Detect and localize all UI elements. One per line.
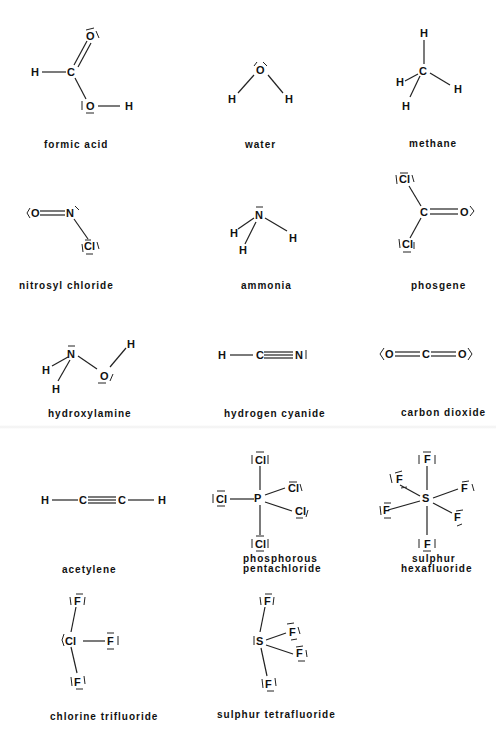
atom-cl: Cl: [216, 493, 227, 505]
chlorine-trifluoride-structure: Cl F F F: [62, 594, 118, 689]
label-water: water: [245, 140, 276, 150]
nitrosyl-chloride-structure: O N Cl: [27, 206, 99, 254]
lewis-structures-figure: H C O O H O H H H C H H H O N Cl: [0, 0, 496, 729]
atom-h: H: [31, 66, 39, 78]
label-sf6-line2: hexafluoride: [401, 564, 472, 574]
atom-c: C: [118, 494, 126, 506]
atom-f: F: [383, 504, 390, 516]
atom-n: N: [67, 348, 75, 360]
atom-n: N: [255, 209, 263, 221]
atom-cl: Cl: [255, 454, 266, 466]
atom-s: S: [256, 635, 263, 647]
label-hydrogen-cyanide: hydrogen cyanide: [224, 409, 326, 419]
atom-f: F: [265, 678, 272, 690]
label-carbon-dioxide: carbon dioxide: [401, 408, 486, 418]
atom-c: C: [422, 348, 430, 360]
water-structure: O H H: [228, 62, 293, 105]
label-ammonia: ammonia: [241, 281, 292, 291]
atom-h: H: [42, 364, 50, 376]
ammonia-structure: N H H H: [230, 207, 297, 256]
atom-h: H: [289, 232, 297, 244]
atom-f: F: [424, 538, 431, 550]
label-nitrosyl-chloride: nitrosyl chloride: [19, 281, 114, 291]
label-chlorine-trifluoride: chlorine trifluoride: [50, 712, 158, 722]
atom-f: F: [396, 473, 403, 485]
atom-o: O: [458, 348, 467, 360]
atom-h: H: [230, 227, 238, 239]
atom-p: P: [254, 492, 261, 504]
atom-c: C: [420, 206, 428, 218]
atom-h: H: [285, 93, 293, 105]
label-acetylene: acetylene: [62, 565, 117, 575]
atom-f: F: [461, 482, 468, 494]
phosgene-structure: Cl C O Cl: [396, 173, 474, 252]
atom-f: F: [289, 626, 296, 638]
atom-c: C: [79, 494, 87, 506]
label-methane: methane: [409, 139, 457, 149]
atom-n: N: [66, 207, 74, 219]
hydrogen-cyanide-structure: H C N: [218, 349, 306, 361]
atom-h: H: [396, 76, 404, 88]
label-pcl5-line2: pentachloride: [243, 564, 322, 574]
atom-h: H: [228, 93, 236, 105]
atom-f: F: [74, 595, 81, 607]
atom-h: H: [454, 83, 462, 95]
acetylene-structure: H C C H: [41, 494, 166, 506]
atom-o: O: [31, 207, 40, 219]
atom-h: H: [420, 27, 428, 39]
atom-f: F: [296, 647, 303, 659]
sulphur-hexafluoride-structure: S F F F F F F: [380, 452, 474, 551]
atom-c: C: [256, 349, 264, 361]
atom-h: H: [218, 349, 226, 361]
atom-cl: Cl: [65, 635, 76, 647]
carbon-dioxide-structure: O C O: [380, 348, 472, 360]
atom-cl: Cl: [255, 538, 266, 550]
methane-structure: H C H H H: [396, 27, 462, 112]
sulphur-tetrafluoride-structure: S F F F F: [254, 594, 307, 691]
atom-f: F: [264, 595, 271, 607]
atom-cl: Cl: [288, 482, 299, 494]
atom-cl: Cl: [402, 238, 413, 250]
atom-h: H: [402, 100, 410, 112]
atom-s: S: [422, 492, 429, 504]
label-hydroxylamine: hydroxylamine: [48, 409, 132, 419]
atom-h: H: [125, 100, 133, 112]
atom-o: O: [256, 64, 265, 76]
atom-h: H: [239, 244, 247, 256]
atom-h: H: [158, 494, 166, 506]
atom-c: C: [419, 65, 427, 77]
atom-c: C: [67, 66, 75, 78]
atom-f: F: [74, 676, 81, 688]
atom-f: F: [424, 453, 431, 465]
atom-o: O: [460, 206, 469, 218]
label-sulphur-tetrafluoride: sulphur tetrafluoride: [217, 710, 336, 720]
atom-n: N: [295, 349, 303, 361]
atom-cl: Cl: [295, 505, 306, 517]
hydroxylamine-structure: N H H O H: [42, 338, 135, 395]
atom-h: H: [52, 383, 60, 395]
atom-o: O: [86, 100, 95, 112]
atom-o: O: [100, 370, 109, 382]
atom-o: O: [86, 30, 95, 42]
formic-acid-structure: H C O O H: [31, 28, 133, 113]
atom-f: F: [454, 511, 461, 523]
atom-o: O: [385, 348, 394, 360]
label-phosgene: phosgene: [411, 281, 466, 291]
label-formic-acid: formic acid: [44, 140, 108, 150]
atom-cl: Cl: [399, 173, 410, 185]
atom-cl: Cl: [84, 240, 95, 252]
atom-f: F: [107, 635, 114, 647]
atom-h: H: [41, 494, 49, 506]
atom-h: H: [127, 338, 135, 350]
phosphorous-pentachloride-structure: P Cl Cl Cl Cl Cl: [213, 452, 308, 551]
